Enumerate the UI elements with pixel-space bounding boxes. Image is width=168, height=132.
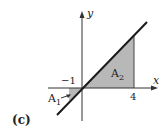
x-axis-label: x (153, 74, 160, 87)
tick-four: 4 (130, 91, 136, 102)
region-a1-label: A1 (47, 92, 61, 107)
y-axis-label: y (86, 7, 94, 20)
tick-neg-one: −1 (61, 75, 76, 86)
y-axis-arrow-icon (80, 11, 85, 18)
panel-label: (c) (12, 113, 31, 127)
area-diagram: y x −1 4 A2 A1 (c) (0, 0, 168, 132)
